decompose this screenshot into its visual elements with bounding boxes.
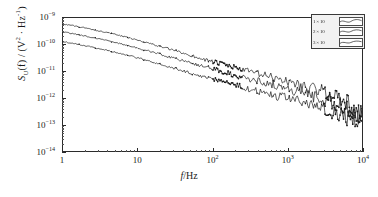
y-tick-mark-minor [62, 63, 64, 64]
y-tick-mark-minor [62, 45, 64, 46]
y-tick-mark-minor [62, 90, 64, 91]
legend-inset: 1 × 102 × 103 × 10 [311, 14, 365, 49]
y-tick-mark-minor [62, 131, 64, 132]
y-tick-label: 10−13 [36, 121, 55, 130]
y-tick-mark-minor [62, 18, 64, 19]
y-tick-mark-minor [62, 25, 64, 26]
x-tick-mark-minor [98, 150, 99, 152]
legend-label: 3 × 10 [313, 40, 338, 45]
legend-row: 3 × 10 [313, 37, 363, 47]
y-tick-mark-minor [62, 36, 64, 37]
y-tick-mark-minor [62, 21, 64, 22]
y-tick-mark-minor [62, 126, 64, 127]
y-tick-label: 10−9 [39, 13, 55, 22]
x-axis-label-unit: /Hz [183, 170, 197, 181]
y-tick-label: 10−12 [36, 94, 55, 103]
x-tick-mark-minor [351, 150, 352, 152]
x-tick-mark-minor [271, 150, 272, 152]
x-tick-mark-minor [201, 150, 202, 152]
x-tick-mark-minor [126, 150, 127, 152]
x-tick-mark-minor [107, 150, 108, 152]
y-tick-mark-minor [62, 139, 64, 140]
x-tick-mark-minor [284, 150, 285, 152]
y-tick-mark-minor [62, 85, 64, 86]
x-tick-mark-minor [360, 150, 361, 152]
x-tick-mark-minor [130, 150, 131, 152]
x-tick-label: 103 [282, 156, 294, 165]
x-tick-mark-minor [346, 150, 347, 152]
y-tick-mark-minor [62, 133, 64, 134]
x-tick-mark-minor [276, 150, 277, 152]
y-tick-mark-minor [62, 104, 64, 105]
legend-label: 1 × 10 [313, 19, 338, 24]
legend-row: 2 × 10 [313, 27, 363, 37]
x-tick-mark [137, 148, 138, 152]
y-tick-mark-minor [62, 55, 64, 56]
x-tick-mark-minor [190, 150, 191, 152]
y-tick-mark-minor [62, 58, 64, 59]
y-tick-mark-minor [62, 102, 64, 103]
y-tick-mark-minor [62, 50, 64, 51]
x-tick-mark-minor [160, 150, 161, 152]
y-tick-mark-minor [62, 23, 64, 24]
x-tick-mark-minor [340, 150, 341, 152]
x-tick-mark-minor [280, 150, 281, 152]
x-tick-mark-minor [115, 150, 116, 152]
x-tick-mark-minor [121, 150, 122, 152]
legend-row: 1 × 10 [313, 16, 363, 26]
x-tick-label: 104 [357, 156, 369, 165]
y-tick-mark-minor [62, 117, 64, 118]
x-tick-mark [213, 148, 214, 152]
y-tick-mark-minor [62, 109, 64, 110]
y-tick-mark-minor [62, 136, 64, 137]
y-tick-mark [62, 152, 66, 153]
x-tick-mark-minor [85, 150, 86, 152]
noise-spectrum-figure: SU(f) / (V2 · Hz-1) 10−910−1010−1110−121… [0, 0, 378, 197]
curve-curve-lower [63, 42, 362, 127]
y-tick-mark-minor [62, 77, 64, 78]
y-tick-mark-minor [62, 112, 64, 113]
y-tick-mark-minor [62, 106, 64, 107]
x-tick-mark-minor [324, 150, 325, 152]
x-tick-mark [62, 148, 63, 152]
x-tick-mark-minor [205, 150, 206, 152]
x-tick-mark [363, 148, 364, 152]
legend-line-sample [339, 38, 363, 47]
y-tick-mark-minor [62, 75, 64, 76]
legend-line-sample [339, 27, 363, 36]
y-tick-mark-minor [62, 129, 64, 130]
y-tick-mark-minor [62, 79, 64, 80]
x-tick-label: 10 [133, 156, 142, 165]
x-tick-mark-minor [258, 150, 259, 152]
y-tick-mark-minor [62, 48, 64, 49]
y-tick-mark-minor [62, 52, 64, 53]
x-tick-mark [288, 148, 289, 152]
y-tick-mark-minor [62, 74, 64, 75]
x-axis-label: f/Hz [0, 170, 378, 181]
y-tick-mark-minor [62, 72, 64, 73]
y-tick-mark-minor [62, 128, 64, 129]
x-tick-mark-minor [356, 150, 357, 152]
x-tick-mark-minor [235, 150, 236, 152]
x-tick-label: 102 [206, 156, 218, 165]
x-tick-mark-minor [209, 150, 210, 152]
x-tick-mark-minor [183, 150, 184, 152]
legend-label: 2 × 10 [313, 29, 338, 34]
x-tick-label: 1 [60, 156, 65, 165]
y-tick-label: 10−10 [36, 40, 55, 49]
legend-line-sample [339, 17, 363, 26]
x-tick-mark-minor [196, 150, 197, 152]
x-tick-mark-minor [173, 150, 174, 152]
y-tick-label: 10−11 [37, 67, 55, 76]
x-tick-mark-minor [134, 150, 135, 152]
markers-curve-lower [63, 41, 362, 127]
x-tick-mark-minor [310, 150, 311, 152]
y-tick-mark-minor [62, 31, 64, 32]
y-tick-mark-minor [62, 99, 64, 100]
x-tick-mark-minor [265, 150, 266, 152]
y-tick-mark-minor [62, 144, 64, 145]
y-tick-mark-minor [62, 20, 64, 21]
y-tick-mark-minor [62, 28, 64, 29]
x-tick-mark-minor [333, 150, 334, 152]
y-tick-mark-minor [62, 47, 64, 48]
